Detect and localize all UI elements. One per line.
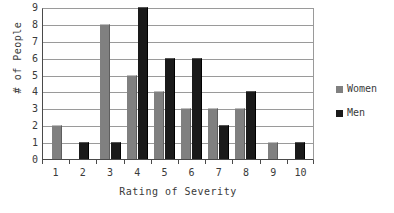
legend: WomenMen: [336, 84, 394, 132]
x-axis-tick: [287, 160, 314, 165]
bar-men-2: [79, 142, 89, 159]
bar-men-8: [246, 91, 256, 159]
legend-label: Men: [347, 108, 365, 118]
bar-group: [97, 9, 124, 159]
bar-men-6: [192, 58, 202, 159]
x-axis-tick-label: 10: [287, 166, 314, 180]
bar-women-7: [208, 108, 218, 159]
legend-item-men[interactable]: Men: [336, 108, 394, 118]
x-axis-tick-labels: 12345678910: [42, 166, 314, 180]
bar-men-5: [165, 58, 175, 159]
bar-group: [232, 9, 259, 159]
bar-group: [286, 9, 313, 159]
y-axis-tick-label: 8: [18, 20, 38, 30]
x-axis-tick: [96, 160, 123, 165]
bar-group: [70, 9, 97, 159]
bar-men-10: [295, 142, 305, 159]
legend-swatch-icon: [336, 86, 343, 93]
bar-men-4: [138, 7, 148, 159]
bar-women-4: [127, 75, 137, 159]
bar-group: [124, 9, 151, 159]
bar-group: [178, 9, 205, 159]
x-axis-tick: [151, 160, 178, 165]
legend-item-women[interactable]: Women: [336, 84, 394, 94]
y-axis-tick-label: 5: [18, 71, 38, 81]
x-axis-tick: [205, 160, 232, 165]
x-axis-tick: [124, 160, 151, 165]
bar-chart: # of People 0123456789 12345678910 Ratin…: [0, 0, 394, 213]
x-axis-tick-label: 4: [124, 166, 151, 180]
x-axis-tick-label: 5: [151, 166, 178, 180]
bar-women-5: [154, 91, 164, 159]
y-axis-tick-label: 2: [18, 121, 38, 131]
y-axis-tick-label: 3: [18, 104, 38, 114]
bar-group: [43, 9, 70, 159]
x-axis-tick-label: 3: [96, 166, 123, 180]
bar-men-3: [111, 142, 121, 159]
bar-group: [259, 9, 286, 159]
y-axis-tick-label: 1: [18, 138, 38, 148]
x-axis-tick: [178, 160, 205, 165]
x-axis-tick: [232, 160, 259, 165]
x-axis-tick-label: 9: [260, 166, 287, 180]
x-axis-tick-label: 6: [178, 166, 205, 180]
bar-women-6: [181, 108, 191, 159]
y-axis-tick-labels: 0123456789: [18, 8, 38, 160]
x-axis-tick-label: 8: [232, 166, 259, 180]
x-axis-tick-end: [313, 160, 314, 164]
bar-men-7: [219, 125, 229, 159]
legend-swatch-icon: [336, 110, 343, 117]
x-axis-tick-label: 1: [42, 166, 69, 180]
bar-group: [205, 9, 232, 159]
x-axis-tick-label: 2: [69, 166, 96, 180]
bars-layer: [43, 9, 313, 159]
legend-label: Women: [347, 84, 377, 94]
bar-women-1: [52, 125, 62, 159]
plot-area: [42, 8, 314, 160]
x-axis-tick: [42, 160, 69, 165]
x-axis-tick: [260, 160, 287, 165]
bar-women-8: [235, 108, 245, 159]
x-axis-title: Rating of Severity: [42, 186, 314, 197]
x-axis-tick-label: 7: [205, 166, 232, 180]
y-axis-tick-label: 6: [18, 54, 38, 64]
y-axis-tick-label: 0: [18, 155, 38, 165]
x-axis-ticks: [42, 160, 314, 165]
bar-women-9: [268, 142, 278, 159]
y-axis-tick-label: 9: [18, 3, 38, 13]
bar-women-3: [100, 24, 110, 159]
bar-group: [151, 9, 178, 159]
y-axis-tick-label: 4: [18, 87, 38, 97]
y-axis-tick-label: 7: [18, 37, 38, 47]
x-axis-tick: [69, 160, 96, 165]
